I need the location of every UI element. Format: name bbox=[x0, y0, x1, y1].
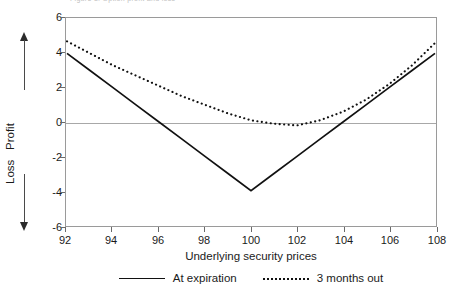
y-tick-label-m4: -4 bbox=[32, 187, 62, 198]
legend-line-solid-icon bbox=[119, 274, 165, 283]
arrow-down-icon bbox=[20, 222, 28, 231]
x-tick-100 bbox=[251, 227, 252, 232]
x-tick-label-104: 104 bbox=[324, 235, 364, 246]
x-tick-96 bbox=[158, 227, 159, 232]
x-tick-label-92: 92 bbox=[45, 235, 85, 246]
x-tick-108 bbox=[437, 227, 438, 232]
x-tick-label-106: 106 bbox=[370, 235, 410, 246]
x-tick-104 bbox=[344, 227, 345, 232]
y-tick-label-m2: -2 bbox=[32, 152, 62, 163]
x-tick-102 bbox=[297, 227, 298, 232]
legend-item-at-expiration: At expiration bbox=[119, 272, 237, 284]
legend-line-dotted-icon bbox=[263, 274, 309, 283]
figure-caption: Figure 3. Option profit and loss bbox=[70, 0, 175, 2]
x-tick-106 bbox=[390, 227, 391, 232]
x-tick-label-108: 108 bbox=[417, 235, 454, 246]
x-axis-title: Underlying security prices bbox=[65, 250, 437, 262]
series-at-expiration bbox=[67, 53, 435, 190]
arrow-up-shaft bbox=[24, 40, 25, 90]
x-tick-label-100: 100 bbox=[231, 235, 271, 246]
x-tick-92 bbox=[65, 227, 66, 232]
plot-area bbox=[65, 17, 437, 227]
y-tick-label-6: 6 bbox=[32, 12, 62, 23]
x-tick-label-102: 102 bbox=[277, 235, 317, 246]
arrow-down-shaft bbox=[24, 174, 25, 224]
legend-label-at-expiration: At expiration bbox=[173, 272, 237, 284]
legend-item-3-months-out: 3 months out bbox=[263, 272, 383, 284]
series-3-months-out bbox=[67, 41, 435, 125]
legend-label-3-months-out: 3 months out bbox=[317, 272, 383, 284]
y-tick-label-0: 0 bbox=[32, 117, 62, 128]
y-tick-label-m6: -6 bbox=[32, 222, 62, 233]
series-canvas bbox=[66, 18, 436, 226]
x-tick-label-96: 96 bbox=[138, 235, 178, 246]
chart-legend: At expiration 3 months out bbox=[65, 272, 437, 284]
chart-figure: Figure 3. Option profit and loss Profit … bbox=[0, 0, 454, 292]
x-tick-94 bbox=[111, 227, 112, 232]
y-tick-label-4: 4 bbox=[32, 47, 62, 58]
y-tick-label-2: 2 bbox=[32, 82, 62, 93]
y-axis-label-loss: Loss bbox=[4, 160, 16, 184]
x-tick-label-98: 98 bbox=[184, 235, 224, 246]
y-axis-label-profit: Profit bbox=[4, 123, 16, 150]
x-tick-label-94: 94 bbox=[91, 235, 131, 246]
x-tick-98 bbox=[204, 227, 205, 232]
